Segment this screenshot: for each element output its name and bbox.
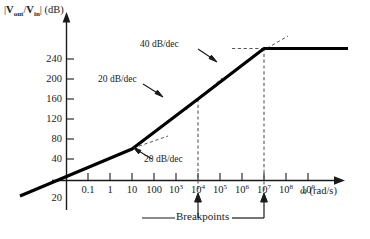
bode-plot-figure: |Vout/Vin| (dB) 240 200 160 120 80 40 20… [0, 0, 370, 239]
y-tick-label-200: 200 [26, 74, 62, 85]
y-axis-title-vout-sub: out [14, 10, 24, 18]
y-axis-title-units: (dB) [45, 4, 64, 15]
y-tick-label-120: 120 [26, 114, 62, 125]
y-axis-title-vout: V [6, 4, 14, 15]
y-tick-label-240: 240 [26, 54, 62, 65]
y-axis-ticks [67, 59, 75, 159]
x-tick-mantissa: 10 [235, 184, 246, 195]
x-tick-mantissa: 10 [191, 184, 202, 195]
x-tick-mantissa: 10 [257, 184, 268, 195]
x-tick-mantissa: 100 [146, 184, 162, 195]
x-tick-mantissa: 10 [213, 184, 224, 195]
y-tick-label-40: 40 [26, 154, 62, 165]
x-tick-mantissa: 0.1 [81, 184, 94, 195]
slope-annotation-20-db-dec-upper: 20 dB/dec [98, 75, 137, 85]
y-axis-title-vin: V [26, 4, 34, 15]
x-tick-mantissa: 10 [169, 184, 180, 195]
below-origin-label: 20 [26, 193, 62, 204]
x-axis-title: ω (rad/s) [300, 186, 337, 197]
breakpoints-label: Breakpoints [176, 211, 229, 222]
annotation-leaders [133, 49, 217, 159]
y-axis-title: |Vout/Vin| (dB) [4, 5, 64, 16]
y-axis-title-bar-close: | [40, 4, 42, 15]
magnitude-response-curve [20, 49, 348, 197]
x-tick-mantissa: 10 [279, 184, 290, 195]
y-tick-label-80: 80 [26, 134, 62, 145]
slope-annotation-20-db-dec-lower: 20 dB/dec [144, 155, 183, 165]
breakpoint-guides [198, 48, 264, 192]
y-tick-label-160: 160 [26, 94, 62, 105]
slope-annotation-40-db-dec: 40 dB/dec [140, 40, 179, 50]
x-tick-mantissa: 10 [127, 184, 138, 195]
x-tick-mantissa: 1 [107, 184, 112, 195]
